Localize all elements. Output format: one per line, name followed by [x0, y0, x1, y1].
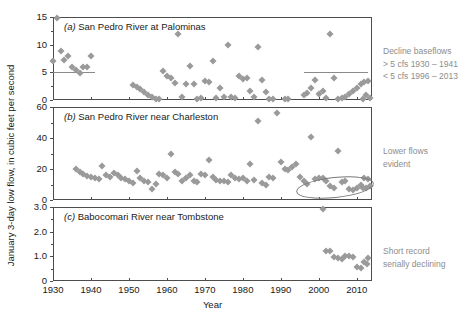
x-tick-b-0: [53, 197, 54, 200]
y-tick-label-c-2: 2.0: [5, 226, 47, 237]
y-tick-a-0: [50, 100, 53, 101]
x-tick-a-7: [319, 97, 320, 100]
y-tick-minor-a-2: [51, 31, 53, 32]
panel-tag-c: (c): [64, 211, 78, 222]
x-tick-label-6: 1990: [261, 284, 301, 295]
x-tick-label-2: 1950: [109, 284, 149, 295]
x-tick-label-5: 1980: [223, 284, 263, 295]
y-tick-minor-c-2: [51, 219, 53, 220]
x-tick-label-3: 1960: [147, 284, 187, 295]
y-tick-minor-b-2: [51, 123, 53, 124]
y-tick-label-a-3: 15: [5, 11, 47, 22]
y-tick-minor-b-0: [51, 185, 53, 186]
x-tick-label-4: 1970: [185, 284, 225, 295]
panel-title-c: (c) Babocomari River near Tombstone: [64, 211, 224, 222]
y-tick-b-3: [50, 107, 53, 108]
figure-root: January 3-day low flow, in cubic feet pe…: [0, 0, 469, 331]
x-tick-b-3: [167, 197, 168, 200]
y-tick-b-0: [50, 200, 53, 201]
panel-title-b: (b) San Pedro River near Charleston: [64, 111, 218, 122]
panel-title-text-a: San Pedro River at Palominas: [78, 21, 205, 32]
panel-title-text-c: Babocomari River near Tombstone: [78, 211, 224, 222]
x-tick-c-6: [281, 278, 282, 281]
y-tick-label-c-1: 1.0: [5, 250, 47, 261]
y-tick-b-1: [50, 169, 53, 170]
x-tick-a-5: [243, 97, 244, 100]
callout-a: Decline baseflows> 5 cfs 1930 – 1941< 5 …: [383, 45, 458, 83]
y-tick-minor-b-1: [51, 154, 53, 155]
y-tick-label-b-1: 20: [5, 163, 47, 174]
x-tick-a-4: [205, 97, 206, 100]
panel-tag-b: (b): [64, 111, 78, 122]
x-tick-b-4: [205, 197, 206, 200]
x-tick-c-8: [357, 278, 358, 281]
x-tick-c-0: [53, 278, 54, 281]
y-tick-c-3: [50, 207, 53, 208]
panel-title-text-b: San Pedro River near Charleston: [78, 111, 218, 122]
x-tick-b-2: [129, 197, 130, 200]
x-tick-c-4: [205, 278, 206, 281]
x-tick-label-8: 2010: [337, 284, 377, 295]
callout-line-a-0: Decline baseflows: [383, 45, 458, 58]
y-tick-c-2: [50, 232, 53, 233]
callout-line-c-1: serially declining: [383, 258, 445, 271]
x-tick-c-3: [167, 278, 168, 281]
reference-line-a-1: [304, 72, 369, 73]
panel-tag-a: (a): [64, 21, 78, 32]
x-tick-c-2: [129, 278, 130, 281]
x-tick-a-1: [91, 97, 92, 100]
y-tick-a-2: [50, 45, 53, 46]
x-tick-b-5: [243, 197, 244, 200]
y-tick-c-0: [50, 281, 53, 282]
y-tick-label-c-3: 3.0: [5, 201, 47, 212]
x-tick-b-6: [281, 197, 282, 200]
x-tick-b-1: [91, 197, 92, 200]
y-tick-c-1: [50, 256, 53, 257]
x-tick-c-5: [243, 278, 244, 281]
x-tick-a-3: [167, 97, 168, 100]
y-tick-minor-c-1: [51, 244, 53, 245]
x-tick-c-1: [91, 278, 92, 281]
y-tick-label-b-3: 60: [5, 101, 47, 112]
callout-line-b-0: Lower flows: [383, 145, 428, 158]
x-tick-label-0: 1930: [33, 284, 73, 295]
y-tick-minor-a-0: [51, 86, 53, 87]
callout-b: Lower flowsevident: [383, 145, 428, 170]
callout-c: Short recordserially declining: [383, 245, 445, 270]
y-tick-label-a-2: 10: [5, 39, 47, 50]
callout-line-c-0: Short record: [383, 245, 445, 258]
x-tick-a-2: [129, 97, 130, 100]
x-tick-label-1: 1940: [71, 284, 111, 295]
x-axis-label: Year: [53, 299, 372, 310]
x-tick-b-8: [357, 197, 358, 200]
x-tick-label-7: 2000: [299, 284, 339, 295]
callout-line-b-1: evident: [383, 158, 428, 171]
panel-title-a: (a) San Pedro River at Palominas: [64, 21, 206, 32]
x-tick-a-8: [357, 97, 358, 100]
y-tick-label-a-1: 5: [5, 66, 47, 77]
y-tick-minor-c-0: [51, 269, 53, 270]
callout-line-a-1: > 5 cfs 1930 – 1941: [383, 58, 458, 71]
callout-line-a-2: < 5 cfs 1996 – 2013: [383, 70, 458, 83]
y-tick-label-b-2: 40: [5, 132, 47, 143]
x-tick-c-7: [319, 278, 320, 281]
y-tick-b-2: [50, 138, 53, 139]
x-tick-a-0: [53, 97, 54, 100]
